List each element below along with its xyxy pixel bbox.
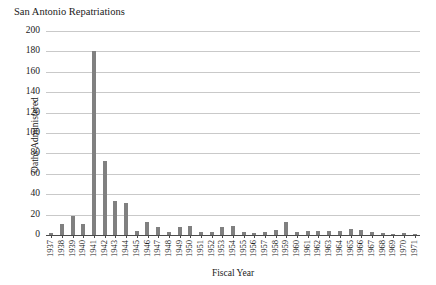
- bar: [124, 203, 128, 235]
- bar-slot: [228, 31, 239, 235]
- x-axis-tick: [254, 235, 255, 238]
- x-axis-tick: [212, 235, 213, 238]
- x-axis-tick: [190, 235, 191, 238]
- bar-slot: [142, 31, 153, 235]
- x-axis-tick: [244, 235, 245, 238]
- bar-slot: [164, 31, 175, 235]
- chart-container: San Antonio Repatriations Oaths Administ…: [0, 0, 436, 285]
- y-axis-tick-label: 120: [0, 108, 40, 118]
- x-axis-tick: [115, 235, 116, 238]
- bar-slot: [238, 31, 249, 235]
- x-axis-tick: [383, 235, 384, 238]
- bar: [103, 161, 107, 235]
- x-axis-tick: [361, 235, 362, 238]
- bar: [188, 226, 192, 235]
- bar: [92, 51, 96, 235]
- x-axis-tick: [180, 235, 181, 238]
- y-axis-tick-label: 140: [0, 87, 40, 97]
- x-axis-tick: [51, 235, 52, 238]
- bar-slot: [99, 31, 110, 235]
- y-axis-tick-label: 180: [0, 46, 40, 56]
- bar-slot: [367, 31, 378, 235]
- x-axis-tick: [393, 235, 394, 238]
- x-axis-tick: [105, 235, 106, 238]
- bar: [60, 224, 64, 235]
- x-axis-tick: [351, 235, 352, 238]
- y-axis-tick-label: 200: [0, 26, 40, 36]
- bar-slot: [270, 31, 281, 235]
- bar-slot: [78, 31, 89, 235]
- bar-slot: [206, 31, 217, 235]
- bar-slot: [57, 31, 68, 235]
- bar: [178, 227, 182, 235]
- bar-slot: [335, 31, 346, 235]
- bar-slot: [217, 31, 228, 235]
- bar-slot: [409, 31, 420, 235]
- bar-slot: [67, 31, 78, 235]
- y-axis-tick-label: 40: [0, 189, 40, 199]
- bar-slot: [324, 31, 335, 235]
- x-axis-tick: [148, 235, 149, 238]
- x-axis-tick: [276, 235, 277, 238]
- x-axis-tick: [372, 235, 373, 238]
- x-axis-tick: [201, 235, 202, 238]
- x-axis-tick: [308, 235, 309, 238]
- bar: [220, 227, 224, 235]
- bar: [231, 226, 235, 235]
- x-axis-tick: [94, 235, 95, 238]
- bar-slot: [196, 31, 207, 235]
- y-axis-tick-label: 80: [0, 148, 40, 158]
- bar: [284, 222, 288, 235]
- bar-slot: [399, 31, 410, 235]
- x-axis-title: Fiscal Year: [46, 268, 420, 278]
- bar-slot: [110, 31, 121, 235]
- x-axis-tick: [286, 235, 287, 238]
- bar-slot: [377, 31, 388, 235]
- x-axis-tick: [83, 235, 84, 238]
- bar-slot: [292, 31, 303, 235]
- x-axis-tick: [415, 235, 416, 238]
- plot-area: [46, 31, 420, 235]
- x-axis-tick: [137, 235, 138, 238]
- bar-slot: [345, 31, 356, 235]
- y-axis-tick-label: 160: [0, 67, 40, 77]
- x-axis-tick: [340, 235, 341, 238]
- bar: [156, 227, 160, 235]
- bar-slot: [302, 31, 313, 235]
- x-axis-tick: [222, 235, 223, 238]
- bar-slot: [260, 31, 271, 235]
- bars-series: [46, 31, 420, 235]
- bar-slot: [356, 31, 367, 235]
- bar: [145, 222, 149, 235]
- x-axis-tick: [404, 235, 405, 238]
- x-axis-tick: [62, 235, 63, 238]
- x-axis-tick: [318, 235, 319, 238]
- bar-slot: [121, 31, 132, 235]
- chart-title: San Antonio Repatriations: [14, 6, 125, 18]
- bar-slot: [153, 31, 164, 235]
- y-axis-tick-label: 100: [0, 128, 40, 138]
- bar-slot: [249, 31, 260, 235]
- x-axis-tick: [169, 235, 170, 238]
- x-axis-tick: [73, 235, 74, 238]
- bar-slot: [313, 31, 324, 235]
- y-axis-tick-label: 20: [0, 210, 40, 220]
- bar: [113, 201, 117, 235]
- y-axis-tick-label: 0: [0, 230, 40, 240]
- x-axis-tick: [126, 235, 127, 238]
- bar-slot: [131, 31, 142, 235]
- bar-slot: [46, 31, 57, 235]
- bar-slot: [89, 31, 100, 235]
- x-axis-tick-label: 1971: [410, 240, 421, 257]
- bar-slot: [174, 31, 185, 235]
- x-axis-tick: [158, 235, 159, 238]
- x-axis-tick: [265, 235, 266, 238]
- y-axis-tick-label: 60: [0, 169, 40, 179]
- x-axis-tick: [297, 235, 298, 238]
- bar: [71, 216, 75, 235]
- bar-slot: [281, 31, 292, 235]
- x-axis-tick: [233, 235, 234, 238]
- x-axis-tick: [329, 235, 330, 238]
- bar-slot: [185, 31, 196, 235]
- bar: [81, 224, 85, 235]
